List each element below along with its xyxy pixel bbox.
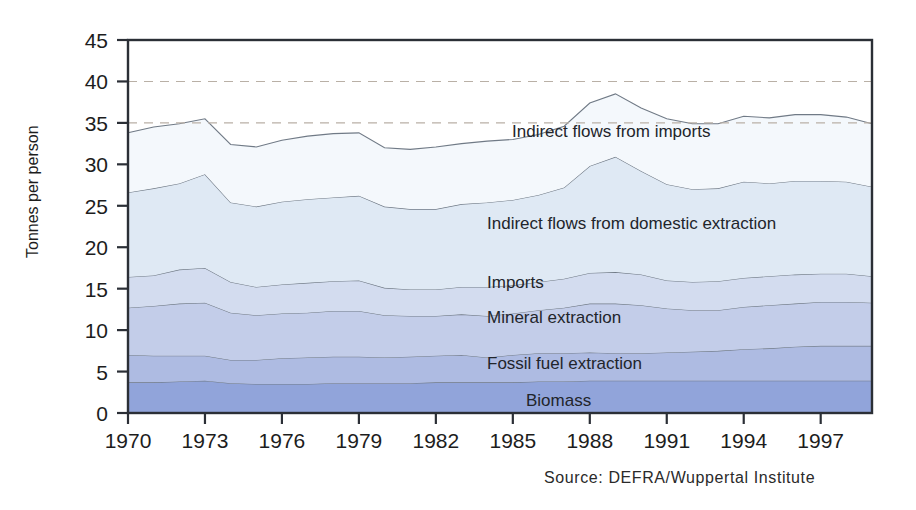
y-tick-label-20: 20 — [85, 236, 108, 259]
x-tick-label-1997: 1997 — [797, 429, 844, 452]
stacked-area-chart: 051015202530354045 197019731976197919821… — [0, 0, 916, 510]
series-label-imports: Imports — [487, 273, 544, 292]
series-label-indirect-domestic: Indirect flows from domestic extraction — [487, 214, 776, 233]
y-tick-label-25: 25 — [85, 195, 108, 218]
series-label-mineral: Mineral extraction — [487, 308, 621, 327]
y-tick-label-10: 10 — [85, 319, 108, 342]
series-label-biomass: Biomass — [526, 391, 591, 410]
x-tick-label-1973: 1973 — [182, 429, 229, 452]
y-tick-label-5: 5 — [96, 361, 108, 384]
x-tick-label-1985: 1985 — [489, 429, 536, 452]
x-tick-label-1970: 1970 — [105, 429, 152, 452]
y-axis-ticks: 051015202530354045 — [85, 29, 128, 425]
y-tick-label-35: 35 — [85, 112, 108, 135]
y-tick-label-45: 45 — [85, 29, 108, 52]
x-axis-ticks: 1970197319761979198219851988199119941997 — [105, 413, 844, 452]
series-label-indirect-imports: Indirect flows from imports — [512, 122, 710, 141]
gridlines — [128, 81, 872, 122]
y-tick-label-30: 30 — [85, 153, 108, 176]
x-tick-label-1988: 1988 — [566, 429, 613, 452]
x-tick-label-1991: 1991 — [643, 429, 690, 452]
x-tick-label-1982: 1982 — [413, 429, 460, 452]
x-tick-label-1979: 1979 — [336, 429, 383, 452]
y-tick-label-40: 40 — [85, 70, 108, 93]
series-label-fossil: Fossil fuel extraction — [487, 354, 642, 373]
y-axis-title: Tonnes per person — [24, 125, 41, 258]
chart-figure: 051015202530354045 197019731976197919821… — [0, 0, 916, 510]
y-tick-label-15: 15 — [85, 278, 108, 301]
x-tick-label-1976: 1976 — [259, 429, 306, 452]
y-tick-label-0: 0 — [96, 402, 108, 425]
source-note: Source: DEFRA/Wuppertal Institute — [544, 469, 815, 486]
x-tick-label-1994: 1994 — [720, 429, 767, 452]
area-band-biomass — [128, 381, 872, 413]
